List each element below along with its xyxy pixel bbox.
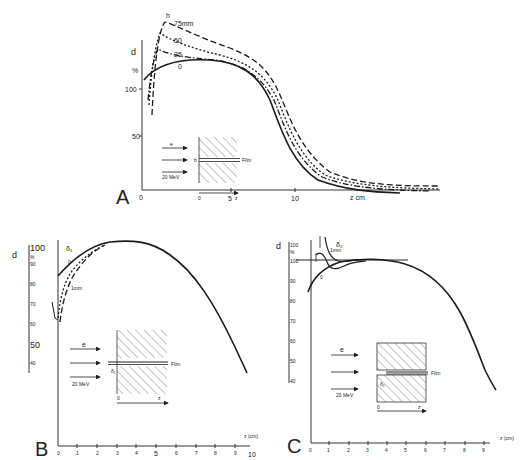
- inset-c-energy-label: 20 MeV: [336, 392, 354, 398]
- inset-a-upper-block: [199, 137, 237, 157]
- inset-c-delta-label: δ₂: [380, 381, 385, 387]
- inset-a-lower-block: [199, 163, 237, 183]
- panel-c-inset: e 20 MeV Film δ₂ 0 z: [331, 343, 440, 411]
- panel-c-y-100: 100: [290, 258, 299, 264]
- curve-25: [148, 49, 430, 191]
- panel-c-x-8: 8: [463, 447, 466, 453]
- panel-c-curve-0-label: 0: [320, 274, 323, 280]
- inset-b-lower-block: [117, 366, 167, 394]
- inset-a-film-label: Film: [242, 157, 251, 163]
- panel-b-annotation: δ₁: [66, 245, 73, 252]
- panel-c-y-label: d: [276, 241, 281, 251]
- inset-c-z: z: [418, 404, 421, 410]
- inset-b-film-label: Film: [171, 361, 180, 367]
- panel-c-curve-1mm-label: 1mm: [330, 247, 341, 253]
- inset-c-upper-block: [377, 343, 426, 370]
- panel-b-y-60: 60: [30, 321, 36, 327]
- panel-c: d 100 % 100 90 80 70 60 50 40 0 1 2 3 4 …: [276, 236, 514, 457]
- panel-b-x-4: 4: [135, 450, 138, 456]
- panel-b-y-50: 50: [30, 340, 40, 350]
- panel-b-x-3: 3: [116, 450, 119, 456]
- panel-a-x-10: 10: [291, 195, 299, 202]
- inset-c-beam-label: e: [340, 346, 344, 353]
- inset-c-film-label: Film: [431, 370, 440, 376]
- panel-b-inset: e 20 MeV Film δ₁ 0 z: [70, 330, 180, 403]
- inset-b-z: z: [158, 395, 161, 401]
- inset-b-delta-label: δ₁: [111, 368, 116, 374]
- inset-a-energy-label: 20 MeV: [162, 174, 180, 180]
- legend-75mm: 75mm: [174, 20, 194, 27]
- panel-c-x-label: z (cm): [500, 435, 514, 441]
- inset-a-z: z: [235, 195, 238, 201]
- panel-c-y-40: 40: [290, 378, 296, 384]
- panel-c-x-7: 7: [443, 447, 446, 453]
- panel-a-letter: A: [116, 186, 130, 208]
- panel-b-x-5: 5: [154, 450, 158, 457]
- panel-a-inset: e 20 MeV Film h 0 z: [162, 137, 251, 201]
- panel-c-x-4: 4: [385, 447, 388, 453]
- panel-b-x-10: 10: [248, 451, 256, 458]
- inset-b-energy-label: 20 MeV: [72, 381, 90, 387]
- panel-b-curve-1mm-label: 1mm: [71, 285, 82, 291]
- panel-c-x-9: 9: [482, 447, 485, 453]
- legend-0: 0: [178, 63, 182, 70]
- panel-b-y-label: d: [12, 250, 17, 260]
- panel-a-x-0: 0: [139, 194, 143, 201]
- inset-b-upper-block: [117, 330, 167, 358]
- panel-c-x-5: 5: [404, 447, 407, 453]
- panel-b-curve-1mm: [60, 245, 105, 322]
- panel-a: d % 100 50 0 5 10 z cm A h 75mm 50 25 0 …: [116, 12, 440, 208]
- inset-b-origin: 0: [117, 395, 120, 401]
- panel-b-x-label: z (cm): [244, 433, 258, 439]
- panel-b-x-1: 1: [76, 450, 79, 456]
- panel-a-y-unit: %: [132, 67, 138, 74]
- panel-b-y-90: 90: [30, 261, 36, 267]
- panel-c-y-60: 60: [290, 338, 296, 344]
- panel-c-y-top: 100: [290, 242, 299, 248]
- panel-b-x-7: 7: [195, 450, 198, 456]
- panel-b-x-9: 9: [234, 450, 237, 456]
- panel-c-x-0: 0: [309, 447, 312, 453]
- panel-b-y-unit: %: [30, 254, 35, 260]
- panel-a-y-label: d: [131, 47, 136, 57]
- panel-c-x-6: 6: [424, 447, 427, 453]
- panel-b-x-6: 6: [175, 450, 178, 456]
- panel-a-x-label: z cm: [350, 194, 365, 201]
- inset-c-origin: 0: [377, 404, 380, 410]
- panel-a-x-5: 5: [228, 195, 232, 202]
- panel-c-y-unit: %: [290, 249, 295, 255]
- panel-b-y-40: 40: [30, 360, 36, 366]
- panel-c-y-50: 50: [290, 358, 296, 364]
- inset-b-beam-label: e: [82, 341, 86, 348]
- panel-c-letter: C: [287, 435, 301, 457]
- panel-c-x-2: 2: [347, 447, 350, 453]
- panel-a-legend-title: h: [166, 12, 170, 19]
- panel-b-y-100: 100: [30, 243, 45, 253]
- panel-b-x-0: 0: [57, 450, 60, 456]
- inset-c-lower-block: [377, 375, 426, 402]
- panel-b-x-8: 8: [214, 450, 217, 456]
- panel-b-letter: B: [35, 438, 48, 460]
- inset-a-beam-label: e: [170, 141, 173, 147]
- panel-b-y-80: 80: [30, 281, 36, 287]
- panel-c-y-70: 70: [290, 318, 296, 324]
- figure: d % 100 50 0 5 10 z cm A h 75mm 50 25 0 …: [0, 0, 524, 460]
- panel-a-y-100: 100: [125, 86, 137, 93]
- panel-a-y-50: 50: [132, 133, 140, 140]
- curve-50: [149, 33, 440, 189]
- panel-c-y-90: 90: [290, 278, 296, 284]
- inset-a-origin: 0: [198, 195, 201, 201]
- panel-c-y-80: 80: [290, 298, 296, 304]
- panel-b-curve-dotted: [58, 245, 105, 318]
- panel-b-x-2: 2: [96, 450, 99, 456]
- panel-b-curve-low: [52, 302, 58, 320]
- inset-a-h-label: h: [194, 157, 197, 163]
- panel-c-x-3: 3: [366, 447, 369, 453]
- panel-b-y-70: 70: [30, 301, 36, 307]
- panel-b: d 100 % 90 80 70 60 50 40 0 1 2 3 4 5 6 …: [12, 240, 258, 460]
- panel-c-x-1: 1: [327, 447, 330, 453]
